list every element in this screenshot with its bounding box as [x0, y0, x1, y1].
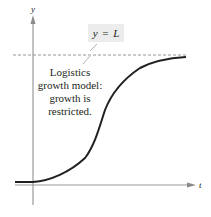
x-axis-label: t	[199, 180, 202, 190]
y-axis-label: y	[30, 4, 35, 14]
asymptote-label: y = L	[92, 27, 120, 39]
annotation-line-3: growth is	[49, 92, 90, 104]
logistic-growth-diagram: y t y = L Logistics growth model: growth…	[0, 0, 211, 217]
annotation-line-4: restricted.	[48, 105, 92, 117]
y-axis-arrow-icon	[31, 15, 36, 24]
x-axis-arrow-icon	[187, 183, 196, 188]
annotation-line-2: growth model:	[38, 79, 102, 91]
annotation-line-1: Logistics	[50, 66, 90, 78]
asymptote-leader-line	[90, 44, 97, 51]
annotation-text: Logistics growth model: growth is restri…	[38, 66, 102, 117]
logistic-curve	[15, 57, 186, 182]
annotation-leader-line	[83, 56, 90, 64]
